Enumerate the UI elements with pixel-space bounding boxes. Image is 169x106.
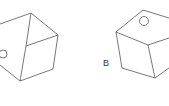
cube-figure-a — [0, 13, 58, 81]
cube-diagrams — [0, 0, 169, 106]
circle-mark-a — [0, 50, 7, 58]
cube-figure-b — [116, 10, 169, 78]
circle-mark-b — [140, 17, 149, 26]
figure-label-b: B — [103, 58, 109, 68]
